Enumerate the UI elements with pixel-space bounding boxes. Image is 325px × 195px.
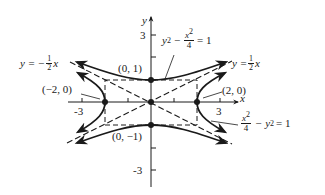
asym-neg-den: 2 <box>46 64 52 72</box>
hyperbola-vertical-lower-right <box>151 125 226 143</box>
asym-pos-fraction: 1 2 <box>248 55 254 72</box>
point-0-1 <box>148 77 154 83</box>
hyperbola-vertical-upper-right <box>151 62 226 80</box>
point-2-0 <box>194 99 200 105</box>
eq-rhs: = 1 <box>197 35 211 46</box>
y-tick-label-3: 3 <box>140 30 146 41</box>
point-origin <box>148 99 154 105</box>
point-label-2-0: (2, 0) <box>222 85 246 96</box>
eq2-rhs: = 1 <box>276 118 290 129</box>
equation-asymptote-negative: y = − 1 2 x <box>20 55 58 72</box>
leader-vertical-eq <box>165 55 174 79</box>
eq2-frac-den: 4 <box>243 124 250 133</box>
leader-neg2-0 <box>81 94 100 99</box>
asym-pos-var: x <box>255 58 260 69</box>
leader-2-0 <box>203 92 222 98</box>
y-axis-label: y <box>142 15 147 26</box>
equation-asymptote-positive: y = 1 2 x <box>232 55 260 72</box>
y-tick-label-neg3: -3 <box>133 165 142 176</box>
equation-vertical-hyperbola: y2 − x2 4 = 1 <box>162 31 212 50</box>
point-label-neg2-0: (−2, 0) <box>42 84 72 95</box>
eq-fraction: x2 4 <box>184 31 194 50</box>
equation-horizontal-hyperbola: x2 4 − y2 = 1 <box>240 114 291 133</box>
eq2-minus-y: − y <box>255 118 270 129</box>
eq-frac-exp: 2 <box>189 27 193 36</box>
point-neg2-0 <box>102 99 108 105</box>
point-label-0-1: (0, 1) <box>118 63 142 74</box>
eq-minus: − <box>174 35 180 46</box>
point-label-0-neg1: (0, −1) <box>112 131 142 142</box>
asym-pos-den: 2 <box>248 64 254 72</box>
hyperbola-horizontal-right-up <box>197 73 225 102</box>
hyperbola-diagram <box>0 0 325 195</box>
point-0-neg1 <box>148 122 154 128</box>
asym-neg-var: x <box>53 58 58 69</box>
x-tick-label-3: 3 <box>216 106 222 117</box>
eq2-fraction: x2 4 <box>241 114 251 133</box>
asym-pos-lhs: y = <box>232 58 247 69</box>
leader-horizontal-eq <box>211 121 238 125</box>
asym-neg-lhs: y = − <box>20 58 45 69</box>
asym-neg-fraction: 1 2 <box>46 55 52 72</box>
x-tick-label-neg3: -3 <box>74 106 83 117</box>
eq2-frac-exp: 2 <box>246 110 250 119</box>
eq-frac-den: 4 <box>186 41 193 50</box>
hyperbola-horizontal-left-up <box>78 73 105 102</box>
